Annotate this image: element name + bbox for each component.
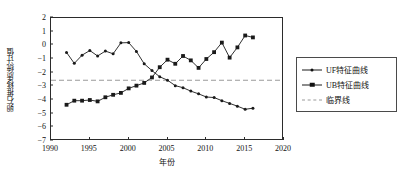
legend-symbol-line-square-icon [301, 79, 323, 90]
y-tick-label: −3 [37, 81, 46, 90]
x-tick-mark [128, 137, 129, 140]
x-tick-mark [89, 137, 90, 140]
x-tick-mark [205, 137, 206, 140]
data-point [243, 34, 247, 38]
y-tick-mark [50, 126, 53, 127]
chart-figure: 卵石推移质统计值 210−1−2−3−4−5−6−7 1990199520002… [0, 0, 404, 177]
data-point [197, 66, 201, 70]
x-tick-mark [244, 137, 245, 140]
data-point [142, 81, 146, 85]
data-point [158, 65, 162, 69]
data-point [174, 84, 177, 87]
data-point [65, 51, 68, 54]
data-point [103, 95, 107, 99]
x-tick-label: 2010 [197, 144, 213, 153]
legend-item-threshold: 临界线 [301, 92, 391, 107]
data-point [96, 99, 100, 103]
y-tick-label: 2 [42, 13, 46, 22]
data-point [73, 62, 76, 65]
x-tick-label: 2000 [120, 144, 136, 153]
data-point [127, 86, 131, 90]
y-axis-label: 卵石推移质统计值 [4, 28, 18, 132]
plot-area-wrapper: 210−1−2−3−4−5−6−7 1990199520002005201020… [50, 17, 283, 140]
y-tick-label: 0 [42, 40, 46, 49]
data-point [197, 92, 200, 95]
y-tick-mark [50, 58, 53, 59]
legend-symbol-line-dot-icon [301, 64, 323, 75]
data-point [228, 56, 232, 60]
data-point [228, 102, 231, 105]
data-point [81, 54, 84, 57]
data-point [135, 84, 139, 88]
data-point [119, 91, 123, 95]
x-tick-label: 2020 [275, 144, 291, 153]
x-tick-label: 2005 [159, 144, 175, 153]
data-point [166, 58, 170, 62]
y-tick-mark [50, 30, 53, 31]
x-tick-mark [50, 137, 51, 140]
data-point [88, 49, 91, 52]
series-canvas [51, 18, 283, 140]
y-tick-mark [50, 99, 53, 100]
x-tick-mark [167, 137, 168, 140]
data-point [135, 50, 138, 53]
x-tick-label: 1995 [81, 144, 97, 153]
y-tick-label: 1 [42, 26, 46, 35]
data-point [181, 54, 185, 58]
legend-item-uf: UF特征曲线 [301, 62, 391, 77]
x-tick-label: 1990 [42, 144, 58, 153]
data-point [112, 52, 115, 55]
data-point [150, 69, 153, 72]
y-tick-mark [50, 17, 53, 18]
data-point [236, 45, 240, 49]
plot-figure: 卵石推移质统计值 210−1−2−3−4−5−6−7 1990199520002… [0, 0, 290, 177]
data-point [236, 105, 239, 108]
data-point [220, 99, 223, 102]
y-tick-label: −1 [37, 54, 46, 63]
data-point [158, 75, 161, 78]
data-point [213, 96, 216, 99]
data-point [96, 54, 99, 57]
y-tick-mark [50, 71, 53, 72]
data-point [212, 50, 216, 54]
y-tick-mark [50, 112, 53, 113]
legend-label-uf: UF特征曲线 [326, 64, 368, 75]
data-point [251, 36, 255, 40]
data-point [166, 79, 169, 82]
data-point [88, 98, 92, 102]
data-point [143, 62, 146, 65]
data-point [104, 50, 107, 53]
y-tick-label: −4 [37, 95, 46, 104]
data-point [65, 103, 69, 107]
legend-label-ub: UB特征曲线 [326, 79, 369, 90]
data-point [80, 99, 84, 103]
data-point [72, 99, 76, 103]
data-point [119, 41, 122, 44]
y-tick-mark [50, 85, 53, 86]
legend-symbol-dashed-line-icon [301, 94, 323, 105]
x-tick-label: 2015 [236, 144, 252, 153]
data-point [111, 93, 115, 97]
legend: UF特征曲线 UB特征曲线 临界线 [296, 57, 397, 112]
data-point [251, 107, 254, 110]
legend-item-ub: UB特征曲线 [301, 77, 391, 92]
plot-area [50, 17, 283, 140]
data-point [220, 41, 224, 45]
x-tick-mark [283, 137, 284, 140]
data-point [173, 62, 177, 66]
data-point [204, 57, 208, 61]
data-point [205, 95, 208, 98]
x-axis-label: 年份 [50, 156, 283, 167]
data-point [189, 90, 192, 93]
data-point [189, 58, 193, 62]
data-point [150, 76, 154, 80]
legend-label-threshold: 临界线 [326, 94, 350, 105]
y-tick-label: −2 [37, 67, 46, 76]
data-point [244, 108, 247, 111]
y-tick-mark [50, 44, 53, 45]
data-point [182, 86, 185, 89]
y-tick-label: −6 [37, 122, 46, 131]
y-tick-label: −5 [37, 108, 46, 117]
series-line-ub [67, 35, 253, 104]
data-point [127, 41, 130, 44]
